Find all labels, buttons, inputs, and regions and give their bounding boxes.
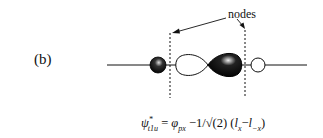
- right-ligand-orbital: [251, 58, 265, 72]
- p-orbital-positive-lobe: [176, 55, 208, 76]
- equals-sign: =: [161, 116, 168, 130]
- psi-subscript: t1u: [148, 124, 158, 133]
- phi-subscript: px: [178, 124, 186, 133]
- sqrt-symbol: √: [206, 116, 213, 130]
- arrowhead-left: [172, 29, 180, 34]
- p-orbital-negative-lobe: [208, 53, 242, 76]
- wavefunction-formula: ψ*t1u = φpx −1/√(2) (lx−l−x): [141, 115, 265, 133]
- paren-close: ): [261, 116, 265, 130]
- arrow-to-left-node: [176, 18, 226, 32]
- coefficient: −1/: [189, 116, 206, 130]
- sqrt-argument: (2): [213, 116, 228, 130]
- minus-sign: −: [242, 116, 249, 130]
- left-ligand-orbital: [150, 57, 166, 73]
- psi-superscript: *: [149, 115, 153, 124]
- ligand-term-2-subscript: −x: [252, 124, 261, 133]
